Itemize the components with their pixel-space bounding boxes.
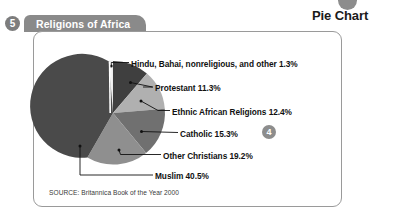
inline-number-badge: 4 bbox=[262, 125, 276, 139]
chart-title: Religions of Africa bbox=[36, 18, 130, 30]
pie-label-other-christians: Other Christians 19.2% bbox=[163, 151, 253, 161]
pie-label-protestant: Protestant 11.3% bbox=[155, 83, 221, 93]
source-note: SOURCE: Britannica Book of the Year 2000 bbox=[49, 189, 179, 196]
chart-header-tab: Religions of Africa bbox=[24, 15, 146, 32]
pie-label-hindu: Hindu, Bahai, nonreligious, and other 1.… bbox=[131, 59, 298, 69]
pie-label-ethnic-african-religions: Ethnic African Religions 12.4% bbox=[172, 107, 292, 117]
corner-caption: Pie Chart bbox=[312, 8, 368, 23]
pie-label-muslim: Muslim 40.5% bbox=[155, 171, 209, 181]
tab-number-badge: 5 bbox=[5, 16, 20, 31]
pie-label-catholic: Catholic 15.3% bbox=[180, 129, 238, 139]
